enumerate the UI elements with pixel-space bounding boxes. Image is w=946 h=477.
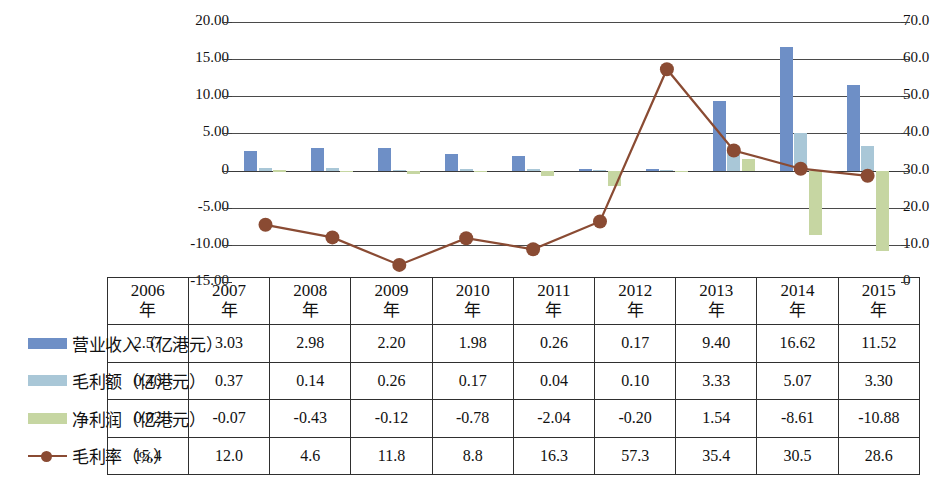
right-axis-tick-1: 60.0	[903, 50, 929, 65]
table-cell: 28.6	[838, 437, 919, 475]
table-cell: 0.10	[595, 362, 676, 400]
table-cell: 9.40	[676, 325, 757, 363]
header-year: 2015	[839, 281, 919, 301]
margin-marker-2006年	[259, 218, 273, 232]
table-header-2007年: 2007年	[188, 278, 269, 325]
left-tick-mark-3	[222, 133, 232, 134]
table-cell: -8.61	[757, 400, 838, 438]
right-axis-tick-4: 30.0	[903, 162, 929, 177]
table-cell: -0.20	[595, 400, 676, 438]
legend-swatch-gross-profit	[28, 375, 67, 386]
table-cell: 2.20	[351, 325, 432, 363]
left-axis-tick-2: 10.00	[195, 87, 229, 102]
right-axis-tick-3: 40.0	[903, 124, 929, 139]
table-row: 净利润（亿港元）0.02-0.07-0.43-0.12-0.78-2.04-0.…	[26, 400, 920, 438]
margin-marker-2015年	[861, 169, 875, 183]
right-tick-mark-6	[901, 245, 910, 246]
left-axis-tick-6: -10.00	[190, 236, 229, 251]
margin-marker-2009年	[459, 231, 473, 245]
left-tick-mark-4	[222, 171, 232, 172]
table-cell: 0.14	[270, 362, 351, 400]
table-cell: 1.98	[432, 325, 513, 363]
table-row-label-cell: 营业收入（亿港元）	[26, 325, 107, 363]
data-table: 2006年2007年2008年2009年2010年2011年2012年2013年…	[26, 277, 920, 475]
right-axis-tick-6: 10.0	[903, 236, 929, 251]
row-legend: 净利润（亿港元）	[28, 406, 107, 431]
header-year: 2014	[757, 281, 837, 301]
table-header-2013年: 2013年	[676, 278, 757, 325]
table-cell: 0.17	[595, 325, 676, 363]
table-header-2009年: 2009年	[351, 278, 432, 325]
table-cell: -2.04	[513, 400, 594, 438]
table-row-label-cell: 毛利率（%）	[26, 437, 107, 475]
right-axis-tick-2: 50.0	[903, 87, 929, 102]
left-axis-tick-3: 5.00	[203, 124, 229, 139]
table-cell: -0.12	[351, 400, 432, 438]
table-cell: 3.30	[838, 362, 919, 400]
table-cell: -0.78	[432, 400, 513, 438]
header-year-suffix: 年	[676, 301, 756, 321]
table-row-label-cell: 净利润（亿港元）	[26, 400, 107, 438]
header-year-suffix: 年	[433, 301, 513, 321]
table-row: 毛利率（%）15.412.04.611.88.816.357.335.430.5…	[26, 437, 920, 475]
right-tick-mark-1	[901, 59, 910, 60]
table-cell: 2.98	[270, 325, 351, 363]
table-corner-cell	[26, 278, 107, 325]
chart-page: 20.0015.0010.005.000-5.00-10.00-15.00 70…	[0, 0, 946, 477]
data-table-region: 2006年2007年2008年2009年2010年2011年2012年2013年…	[26, 277, 920, 475]
header-year-suffix: 年	[270, 301, 350, 321]
left-tick-mark-2	[222, 96, 232, 97]
header-year: 2012	[595, 281, 675, 301]
right-tick-mark-3	[901, 133, 910, 134]
header-year: 2013	[676, 281, 756, 301]
table-header-2012年: 2012年	[595, 278, 676, 325]
left-axis-tick-1: 15.00	[195, 50, 229, 65]
header-year: 2006	[108, 281, 188, 301]
left-tick-mark-5	[222, 208, 232, 209]
header-year: 2007	[189, 281, 269, 301]
table-header-2006年: 2006年	[107, 278, 188, 325]
table-cell: 0.04	[513, 362, 594, 400]
margin-line-series	[232, 22, 901, 282]
right-tick-mark-4	[901, 171, 910, 172]
table-cell: 12.0	[188, 437, 269, 475]
table-cell: 16.3	[513, 437, 594, 475]
left-axis-tick-0: 20.00	[195, 13, 229, 28]
table-body: 营业收入（亿港元）2.573.032.982.201.980.260.179.4…	[26, 325, 920, 475]
table-cell: 11.52	[838, 325, 919, 363]
header-year-suffix: 年	[351, 301, 431, 321]
table-header-row: 2006年2007年2008年2009年2010年2011年2012年2013年…	[26, 278, 920, 325]
left-tick-mark-1	[222, 59, 232, 60]
table-header-2014年: 2014年	[757, 278, 838, 325]
row-legend: 毛利率（%）	[28, 443, 107, 468]
left-tick-mark-0	[222, 22, 232, 23]
left-tick-mark-6	[222, 245, 232, 246]
table-cell: 11.8	[351, 437, 432, 475]
margin-marker-2007年	[325, 230, 339, 244]
table-cell: 16.62	[757, 325, 838, 363]
header-year: 2008	[270, 281, 350, 301]
table-cell: 57.3	[595, 437, 676, 475]
margin-marker-2011年	[593, 215, 607, 229]
header-year-suffix: 年	[757, 301, 837, 321]
margin-line-path	[266, 69, 868, 265]
header-year-suffix: 年	[514, 301, 594, 321]
header-year: 2009	[351, 281, 431, 301]
table-row-label-cell: 毛利额（亿港元）	[26, 362, 107, 400]
plot-area	[232, 22, 901, 282]
table-cell: 0.17	[432, 362, 513, 400]
header-year-suffix: 年	[108, 301, 188, 321]
table-row: 营业收入（亿港元）2.573.032.982.201.980.260.179.4…	[26, 325, 920, 363]
right-tick-mark-2	[901, 96, 910, 97]
table-cell: 3.33	[676, 362, 757, 400]
table-cell: 30.5	[757, 437, 838, 475]
table-cell: 8.8	[432, 437, 513, 475]
left-axis-tick-4: 0	[222, 162, 230, 177]
table-cell: 0.26	[513, 325, 594, 363]
table-cell: 5.07	[757, 362, 838, 400]
right-tick-mark-5	[901, 208, 910, 209]
table-cell: 35.4	[676, 437, 757, 475]
right-axis-tick-0: 70.0	[903, 13, 929, 28]
legend-swatch-net-profit	[28, 413, 67, 424]
header-year: 2010	[433, 281, 513, 301]
